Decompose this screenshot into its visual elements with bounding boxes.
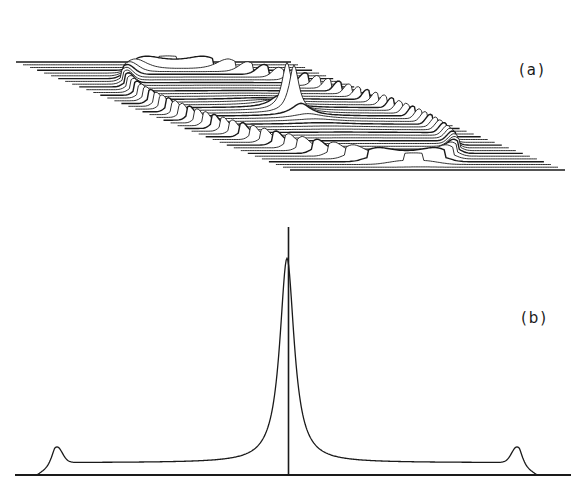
figure: (a) (b) [0, 0, 573, 485]
panel-b-series-line [37, 258, 537, 475]
panel-a-label: (a) [519, 61, 546, 79]
panel-b-label: (b) [521, 309, 548, 327]
panel-b-line-plot [15, 227, 571, 475]
panel-a-waterfall-plot [16, 56, 565, 170]
